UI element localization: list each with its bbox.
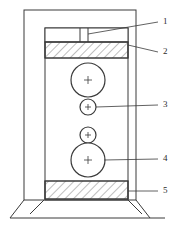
figure-canvas: 1 2 3 4 5 (0, 0, 175, 225)
leader-3 (96, 105, 158, 107)
base-left-inner (30, 200, 44, 214)
callout-label-4: 4 (163, 154, 168, 163)
leader-4 (104, 159, 158, 160)
callout-label-2: 2 (163, 47, 168, 56)
upper-hatched-platen (45, 42, 128, 58)
diagram-svg (0, 0, 175, 225)
top-cap-block (45, 28, 128, 42)
leader-2 (128, 45, 158, 52)
base-left-leg (10, 200, 24, 218)
callout-label-3: 3 (163, 100, 168, 109)
callout-label-1: 1 (163, 17, 168, 26)
base-right-inner (128, 200, 142, 214)
callout-label-5: 5 (163, 186, 168, 195)
base-right-leg (136, 200, 150, 218)
lower-hatched-platen (45, 181, 128, 199)
